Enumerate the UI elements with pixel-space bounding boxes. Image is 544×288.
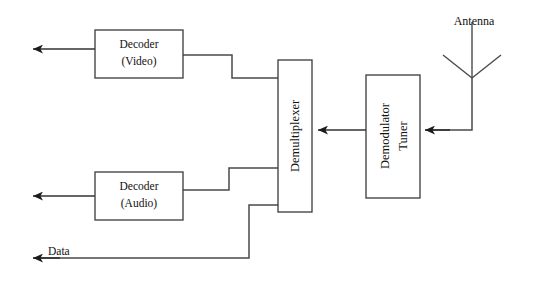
demodulator-label: Demodulator [378, 102, 392, 169]
block-decoder-video[interactable]: Decoder (Video) [95, 30, 183, 78]
wire-antenna-to-demodulator [425, 78, 472, 130]
decoder-video-label-line2: (Video) [121, 55, 156, 68]
block-demodulator-tuner[interactable]: Demodulator Tuner [366, 75, 420, 198]
tuner-label: Tuner [396, 120, 410, 150]
antenna-icon [443, 22, 501, 78]
antenna-label: Antenna [454, 14, 495, 28]
block-diagram: Antenna Decoder (Video) Decoder (Audio) … [0, 0, 544, 288]
block-demultiplexer[interactable]: Demultiplexer [278, 60, 312, 212]
decoder-audio-label-line1: Decoder [120, 180, 159, 192]
data-label: Data [48, 245, 70, 257]
diagram-canvas: Antenna Decoder (Video) Decoder (Audio) … [0, 0, 544, 288]
block-decoder-audio[interactable]: Decoder (Audio) [95, 172, 183, 220]
demultiplexer-label: Demultiplexer [288, 99, 302, 172]
wire-demux-to-audio-decoder [183, 168, 279, 190]
wire-demux-to-video-decoder [183, 55, 279, 78]
decoder-video-label-line1: Decoder [120, 38, 159, 50]
decoder-audio-label-line2: (Audio) [121, 197, 158, 210]
